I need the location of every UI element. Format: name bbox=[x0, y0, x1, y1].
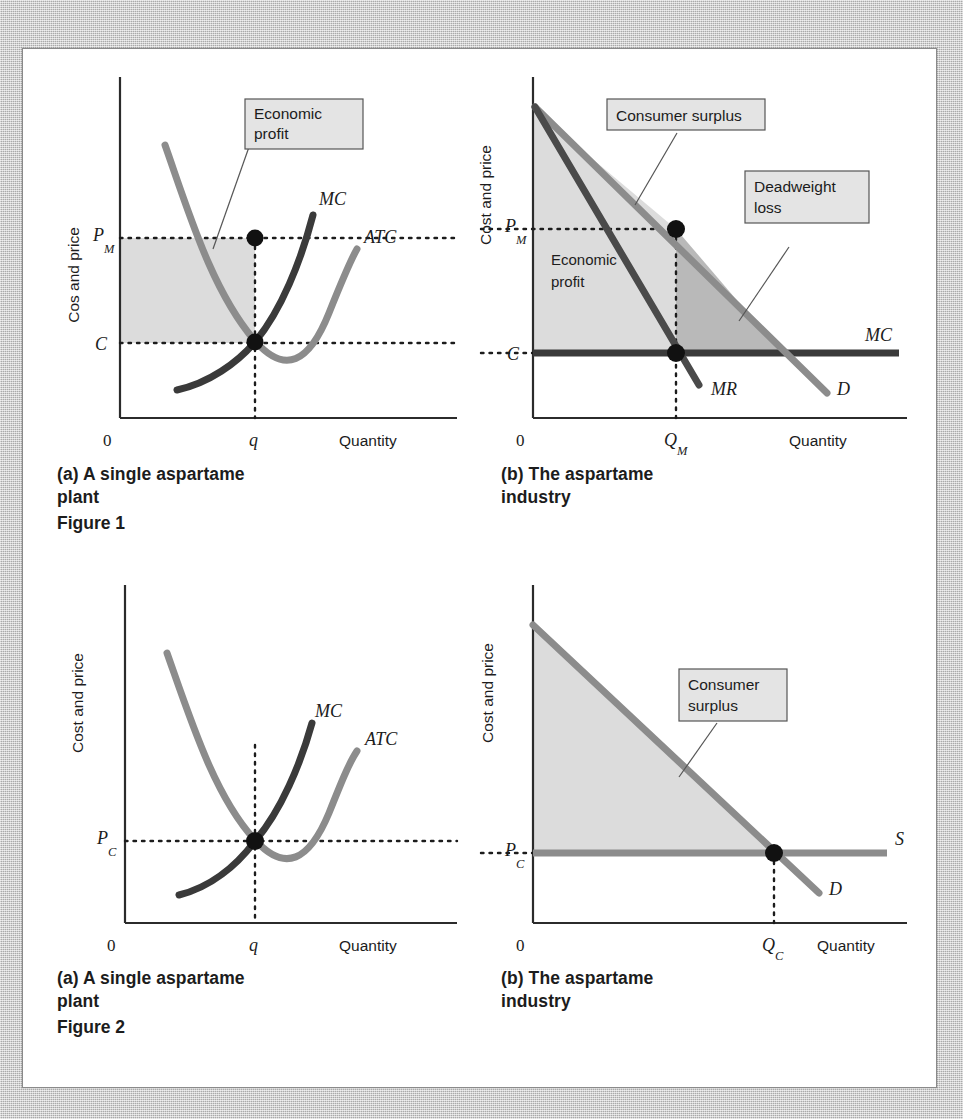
mc-curve-label: MC bbox=[864, 325, 893, 345]
consumer-surplus-callout-text: Consumer surplus bbox=[616, 107, 742, 124]
fig2-panel-a-caption: (a) A single aspartame plant bbox=[57, 967, 437, 1013]
x-axis-label: Quantity bbox=[789, 432, 847, 449]
fig1-panel-a-caption: (a) A single aspartame plant bbox=[57, 463, 437, 509]
y-axis-label: Cost and price bbox=[69, 653, 86, 753]
mr-curve-label: MR bbox=[710, 379, 737, 399]
consumer-surplus-callout-line1: Consumer bbox=[688, 676, 760, 693]
economic-profit-note-line1: Economic bbox=[551, 251, 617, 268]
origin-label: 0 bbox=[516, 431, 525, 450]
fig1-panel-b-chart: Consumer surplus Deadweight loss Economi… bbox=[467, 63, 917, 463]
economic-profit-callout-line2: profit bbox=[254, 125, 289, 142]
min-atc-point bbox=[247, 334, 264, 351]
economic-profit-shade bbox=[533, 229, 676, 353]
deadweight-loss-callout-line1: Deadweight bbox=[754, 178, 837, 195]
consumer-surplus-leader bbox=[635, 133, 677, 205]
y-tick-pc: P bbox=[96, 828, 108, 848]
fig1-panel-b-caption: (b) The aspartame industry bbox=[501, 463, 881, 509]
fig2-panel-b-caption: (b) The aspartame industry bbox=[501, 967, 881, 1013]
figure-page-card: Economic profit MC ATC Cos and price P M… bbox=[22, 48, 937, 1088]
competitive-equilibrium-point bbox=[246, 832, 264, 850]
y-tick-c: C bbox=[507, 344, 520, 364]
y-tick-c: C bbox=[95, 334, 108, 354]
deadweight-loss-leader bbox=[739, 247, 789, 321]
fig1-panel-b-svg: Consumer surplus Deadweight loss Economi… bbox=[467, 63, 917, 463]
y-tick-pc-sub: C bbox=[108, 845, 117, 859]
supply-curve-label: S bbox=[895, 829, 904, 849]
deadweight-loss-callout-line2: loss bbox=[754, 199, 782, 216]
fig2-panel-b-chart: Consumer surplus S D Cost and price P C … bbox=[467, 565, 917, 965]
y-tick-pm: P bbox=[504, 216, 516, 236]
y-axis-label: Cos and price bbox=[65, 227, 82, 323]
mc-curve-label: MC bbox=[314, 701, 343, 721]
y-tick-pc: P bbox=[504, 840, 516, 860]
x-axis-label: Quantity bbox=[339, 937, 397, 954]
y-tick-pm-sub: M bbox=[103, 242, 115, 256]
x-tick-qc-sub: C bbox=[775, 949, 784, 963]
economic-profit-note-line2: profit bbox=[551, 273, 585, 290]
figure-1-label: Figure 1 bbox=[57, 513, 125, 534]
origin-label: 0 bbox=[516, 936, 525, 955]
y-tick-pm-sub: M bbox=[515, 233, 527, 247]
origin-label: 0 bbox=[103, 431, 112, 450]
x-axis-label: Quantity bbox=[817, 937, 875, 954]
y-axis-label: Cost and price bbox=[479, 643, 496, 743]
origin-label: 0 bbox=[107, 936, 116, 955]
atc-curve-label: ATC bbox=[363, 227, 397, 247]
fig1-panel-a-svg: Economic profit MC ATC Cos and price P M… bbox=[57, 63, 467, 463]
atc-curve-label: ATC bbox=[364, 729, 398, 749]
x-tick-qm: Q bbox=[664, 430, 677, 450]
y-tick-pc-sub: C bbox=[516, 857, 525, 871]
x-axis-label: Quantity bbox=[339, 432, 397, 449]
monopoly-quantity-point bbox=[667, 344, 685, 362]
monopoly-price-point bbox=[667, 220, 685, 238]
economic-profit-shade bbox=[120, 238, 255, 343]
x-tick-qm-sub: M bbox=[676, 444, 688, 458]
x-tick-qc: Q bbox=[762, 935, 775, 955]
demand-curve-label: D bbox=[828, 879, 842, 899]
fig2-panel-b-svg: Consumer surplus S D Cost and price P C … bbox=[467, 565, 917, 965]
demand-curve-label: D bbox=[836, 379, 850, 399]
mc-curve-label: MC bbox=[318, 189, 347, 209]
figure-2-label: Figure 2 bbox=[57, 1017, 125, 1038]
consumer-surplus-leader bbox=[679, 723, 717, 777]
consumer-surplus-callout-line2: surplus bbox=[688, 697, 738, 714]
fig2-panel-a-svg: MC ATC Cost and price P C q 0 Quantity bbox=[57, 565, 467, 965]
y-axis-label: Cost and price bbox=[477, 145, 494, 245]
x-tick-q: q bbox=[249, 935, 258, 955]
x-tick-q: q bbox=[249, 430, 258, 450]
y-tick-pm: P bbox=[92, 225, 104, 245]
economic-profit-leader bbox=[213, 147, 249, 249]
monopoly-price-point bbox=[247, 230, 264, 247]
fig2-panel-a-chart: MC ATC Cost and price P C q 0 Quantity bbox=[57, 565, 467, 965]
economic-profit-callout-line1: Economic bbox=[254, 105, 322, 122]
competitive-equilibrium-point bbox=[765, 844, 783, 862]
fig1-panel-a-chart: Economic profit MC ATC Cos and price P M… bbox=[57, 63, 467, 463]
